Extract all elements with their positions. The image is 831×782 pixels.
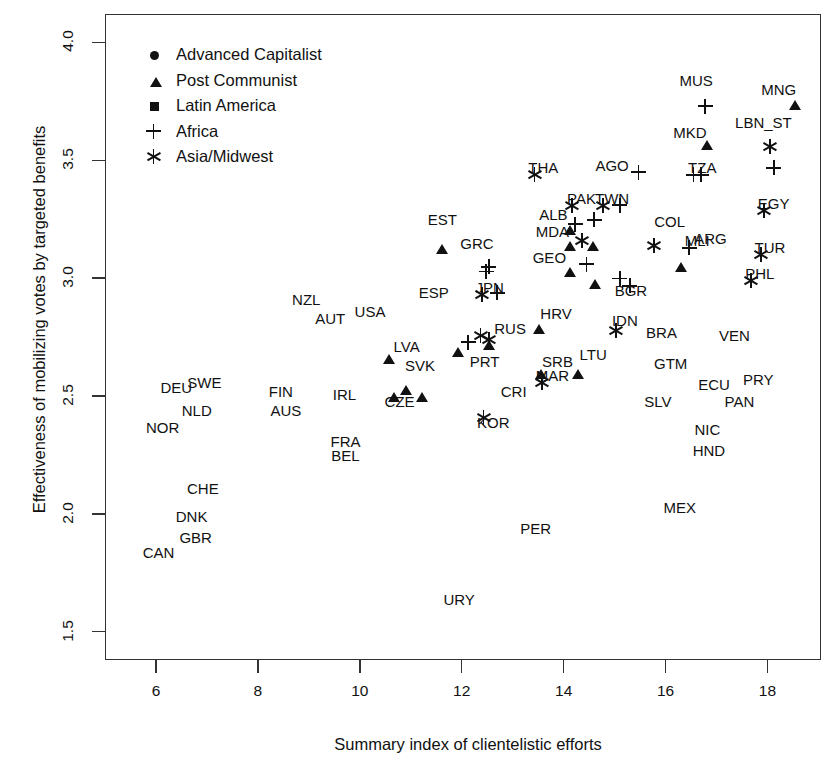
y-axis-tick [92, 277, 105, 278]
x-axis-tick [563, 660, 564, 673]
data-point-label: THA [528, 159, 558, 176]
filled-triangle-icon [587, 224, 599, 251]
data-point-label: COL [654, 213, 685, 230]
data-point [436, 227, 448, 245]
filled-triangle-icon [452, 330, 464, 357]
data-point-label: NLD [182, 402, 212, 419]
data-point-label: NIC [694, 420, 720, 437]
scatter-plot-figure: Effectiveness of mobilizing votes by tar… [0, 0, 831, 782]
filled-triangle-icon [589, 262, 601, 289]
data-point-label: PRY [743, 371, 774, 388]
data-point-label: GTM [654, 354, 687, 371]
data-point-label: AUT [315, 310, 345, 327]
data-point-label: LBN_ST [735, 114, 792, 131]
y-axis-tick [92, 42, 105, 43]
data-point-label: GBR [179, 529, 212, 546]
data-point-label: NOR [146, 418, 179, 435]
data-point-label: USA [355, 303, 386, 320]
data-point [388, 375, 400, 393]
data-point-label: PAN [725, 392, 755, 409]
data-point-label: GEO [533, 248, 566, 265]
data-point-label: URY [443, 590, 474, 607]
data-point-label: GRC [460, 234, 493, 251]
y-axis-tick-label: 1.5 [59, 611, 77, 651]
data-point-label: MNG [761, 81, 796, 98]
x-axis-tick-label: 6 [136, 682, 176, 700]
filled-triangle-icon [150, 77, 162, 87]
legend-label: Advanced Capitalist [176, 45, 322, 64]
data-point-label: CAN [143, 543, 175, 560]
legend-label: Post Communist [176, 71, 297, 90]
data-point-label: CRI [501, 383, 527, 400]
legend-label: Africa [176, 122, 218, 141]
data-point-label: IDN [612, 312, 638, 329]
data-point-label: ECU [698, 376, 730, 393]
x-axis-tick [359, 660, 360, 673]
x-axis-tick-label: 16 [646, 682, 686, 700]
data-point-label: LTU [580, 345, 607, 362]
data-point-label: PAK [567, 189, 596, 206]
data-point-label: SVK [405, 357, 435, 374]
x-axis-tick-label: 12 [442, 682, 482, 700]
data-point-label: MUS [679, 72, 712, 89]
data-point-label: RUS [494, 319, 526, 336]
x-axis-tick [767, 660, 768, 673]
data-point-label: LVA [394, 338, 420, 355]
data-point-label: HRV [540, 305, 571, 322]
legend-marker [146, 44, 168, 66]
data-point-label: NZL [292, 291, 320, 308]
data-point-label: MKD [673, 123, 706, 140]
legend-label: Asia/Midwest [176, 147, 273, 166]
filled-circle-icon [150, 51, 159, 60]
x-axis-tick-label: 8 [238, 682, 278, 700]
x-axis-tick-label: 10 [340, 682, 380, 700]
y-axis-tick-label: 3.0 [59, 257, 77, 297]
data-point-label: MEX [664, 498, 697, 515]
data-point-label: SLV [644, 392, 671, 409]
y-axis-tick [92, 631, 105, 632]
legend-marker [146, 95, 168, 117]
legend-label: Latin America [176, 96, 276, 115]
plus-icon [146, 124, 161, 139]
data-point-label: ALB [539, 206, 567, 223]
data-point-label: VEN [719, 326, 750, 343]
y-axis-tick-label: 2.0 [59, 493, 77, 533]
y-axis-tick-label: 2.5 [59, 375, 77, 415]
data-point-label: BRA [646, 324, 677, 341]
x-axis-tick [155, 660, 156, 673]
data-point-label: MLI [685, 232, 710, 249]
data-point-label: HND [693, 442, 726, 459]
data-point-label: MAR [536, 366, 569, 383]
x-axis-title: Summary index of clientelistic efforts [105, 735, 831, 754]
data-point-label: JPN [476, 279, 504, 296]
data-point-label: PER [520, 519, 551, 536]
x-axis-tick [461, 660, 462, 673]
data-point-label: CHE [187, 479, 219, 496]
data-point-label: AUS [270, 402, 301, 419]
legend-marker [146, 121, 168, 143]
y-axis-tick [92, 513, 105, 514]
x-axis-tick-label: 14 [544, 682, 584, 700]
x-axis-tick [665, 660, 666, 673]
data-point-label: ESP [419, 284, 449, 301]
filled-triangle-icon [416, 375, 428, 402]
data-point-label: EST [428, 211, 457, 228]
data-point-label: TUR [755, 239, 786, 256]
y-axis-tick-label: 4.0 [59, 21, 77, 61]
data-point-label: KOR [477, 413, 510, 430]
data-point-label: SWE [187, 373, 221, 390]
asterisk-icon [146, 149, 161, 164]
x-axis-tick-label: 18 [747, 682, 787, 700]
data-point-label: AGO [595, 156, 628, 173]
data-point-label: PHL [745, 265, 774, 282]
data-point-label: TWN [595, 189, 629, 206]
data-point [452, 330, 464, 348]
filled-triangle-icon [675, 245, 687, 272]
y-axis-title: Effectiveness of mobilizing votes by tar… [30, 20, 49, 620]
legend-marker [146, 70, 168, 92]
data-point-label: BEL [331, 446, 359, 463]
x-axis-tick [257, 660, 258, 673]
data-point-label: EGY [758, 194, 790, 211]
y-axis-tick [92, 395, 105, 396]
data-point-label: IRL [333, 385, 356, 402]
